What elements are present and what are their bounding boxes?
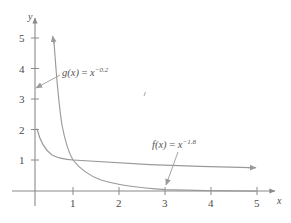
- y-tick-label-4: 4: [19, 64, 25, 75]
- y-tick-label-5: 5: [19, 33, 25, 44]
- leader-line-g: [36, 75, 60, 88]
- y-tick-label-1: 1: [19, 155, 25, 166]
- curve-label-g: g(x) = x−0.2: [62, 68, 108, 79]
- curve-label-f-eq: =: [167, 139, 178, 150]
- curve-g: [37, 129, 250, 168]
- leader-line-f: [166, 152, 178, 185]
- curve-f: [54, 42, 256, 191]
- x-tick-label-5: 5: [254, 198, 260, 209]
- x-tick-label-4: 4: [208, 198, 214, 209]
- y-axis: [31, 18, 39, 206]
- curve-label-g-eq: =: [79, 67, 90, 78]
- y-tick-label-3: 3: [19, 94, 25, 105]
- y-axis-label: y: [28, 12, 32, 22]
- curve-label-f-exponent: −1.8: [182, 138, 195, 146]
- function-graph-figure: y x 1 2 3 4 5 1 2 3 4 5 g(x) = x−0.2 f(x…: [0, 0, 291, 223]
- x-tick-label-3: 3: [162, 198, 168, 209]
- x-tick-label-2: 2: [116, 198, 122, 209]
- x-axis-label: x: [277, 196, 281, 206]
- stray-mark: [144, 92, 146, 96]
- curve-f-arrow: [53, 36, 54, 44]
- plot-canvas: [0, 0, 291, 223]
- curve-label-f: f(x) = x−1.8: [152, 140, 196, 151]
- curve-label-g-exponent: −0.2: [95, 66, 108, 74]
- y-tick-label-2: 2: [19, 125, 25, 136]
- x-tick-label-1: 1: [70, 198, 76, 209]
- curve-label-g-arg: (x): [67, 67, 79, 78]
- curve-label-f-arg: (x): [155, 139, 167, 150]
